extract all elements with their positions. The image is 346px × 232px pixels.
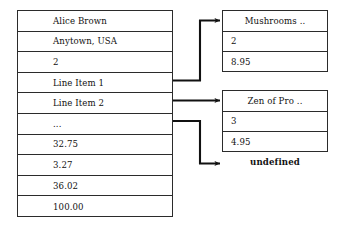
table-row-line-item-2[interactable]: Line Item 2 bbox=[18, 93, 172, 114]
detail-box-2-header: Zen of Pro .. bbox=[248, 96, 303, 106]
table-row[interactable]: Alice Brown bbox=[18, 11, 172, 32]
table-row[interactable]: 2 bbox=[223, 32, 327, 53]
connector-line-item-1-arrow bbox=[173, 21, 220, 81]
table-row[interactable]: 100.00 bbox=[18, 196, 172, 217]
table-row-header[interactable]: Mushrooms .. bbox=[223, 11, 327, 32]
connector-ellipsis-arrow bbox=[173, 121, 220, 164]
table-row-line-item-1[interactable]: Line Item 1 bbox=[18, 73, 172, 94]
table-row[interactable]: 36.02 bbox=[18, 176, 172, 197]
diagram-canvas: Alice Brown Anytown, USA 2 Line Item 1 L… bbox=[0, 0, 346, 232]
main-record-cell-paid: 100.00 bbox=[53, 202, 84, 212]
main-record-cell-count: 2 bbox=[53, 57, 59, 67]
main-record-cell-line-item-1: Line Item 1 bbox=[53, 78, 104, 88]
main-record-table: Alice Brown Anytown, USA 2 Line Item 1 L… bbox=[17, 10, 173, 217]
table-row[interactable]: 4.95 bbox=[223, 132, 327, 153]
detail-box-1-price: 8.95 bbox=[231, 57, 251, 67]
table-row-ellipsis[interactable]: ... bbox=[18, 114, 172, 135]
table-row[interactable]: 3 bbox=[223, 112, 327, 133]
main-record-cell-tax: 3.27 bbox=[53, 160, 73, 170]
table-row[interactable]: 8.95 bbox=[223, 52, 327, 73]
detail-box-2-quantity: 3 bbox=[231, 116, 237, 126]
line-item-2-detail-box: Zen of Pro .. 3 4.95 bbox=[222, 90, 328, 152]
line-item-1-detail-box: Mushrooms .. 2 8.95 bbox=[222, 10, 328, 72]
main-record-cell-name: Alice Brown bbox=[53, 16, 107, 26]
main-record-cell-total: 36.02 bbox=[53, 181, 78, 191]
detail-box-1-quantity: 2 bbox=[231, 36, 237, 46]
detail-box-1-header: Mushrooms .. bbox=[245, 16, 306, 26]
table-row[interactable]: 2 bbox=[18, 52, 172, 73]
main-record-cell-ellipsis: ... bbox=[53, 119, 62, 129]
detail-box-2-price: 4.95 bbox=[231, 137, 251, 147]
main-record-cell-line-item-2: Line Item 2 bbox=[53, 98, 104, 108]
table-row[interactable]: 3.27 bbox=[18, 155, 172, 176]
main-record-cell-city: Anytown, USA bbox=[53, 36, 117, 46]
undefined-label: undefined bbox=[222, 157, 328, 167]
table-row[interactable]: 32.75 bbox=[18, 135, 172, 156]
table-row[interactable]: Anytown, USA bbox=[18, 32, 172, 53]
main-record-cell-subtotal: 32.75 bbox=[53, 139, 78, 149]
table-row-header[interactable]: Zen of Pro .. bbox=[223, 91, 327, 112]
